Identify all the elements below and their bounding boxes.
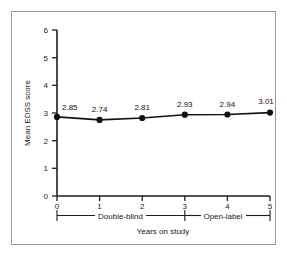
x-tick-label-3: 3 [183,202,188,211]
phase-bracket: Double-blind Open-label [57,210,270,221]
x-tick-label-5: 5 [268,202,273,211]
data-point-year-2 [139,115,145,121]
data-value-labels: 2.85 2.74 2.81 2.93 2.94 3.01 [62,97,274,114]
y-tick-label-0: 0 [44,192,49,201]
y-tick-label-1: 1 [44,164,49,173]
data-label-year-0: 2.85 [62,103,78,112]
phase-label-open-label: Open-label [203,212,242,221]
data-label-year-5: 3.01 [258,97,274,106]
y-axis: 6 5 4 3 2 1 0 Mean EDSS score [23,26,57,201]
data-point-year-5 [267,110,273,116]
series-line-mean-edss [57,113,270,120]
x-axis-title: Years on study [137,227,190,236]
x-tick-label-1: 1 [97,202,102,211]
data-label-year-2: 2.81 [134,103,150,112]
data-point-year-3 [182,112,188,118]
data-series [54,110,273,124]
x-axis: 0 1 2 3 4 5 [55,196,273,211]
y-tick-label-5: 5 [44,54,49,63]
x-tick-label-4: 4 [225,202,230,211]
x-tick-label-0: 0 [55,202,60,211]
data-point-year-4 [224,111,230,117]
data-label-year-4: 2.94 [220,100,236,109]
data-point-year-0 [54,114,60,120]
data-point-year-1 [97,117,103,123]
figure-container: 6 5 4 3 2 1 0 Mean EDSS score 0 1 2 3 4 … [0,0,287,257]
y-tick-label-3: 3 [44,109,49,118]
data-label-year-1: 2.74 [92,105,108,114]
phase-label-double-blind: Double-blind [98,212,143,221]
line-chart: 6 5 4 3 2 1 0 Mean EDSS score 0 1 2 3 4 … [0,0,287,257]
y-axis-title: Mean EDSS score [23,80,32,146]
x-tick-label-2: 2 [140,202,145,211]
y-tick-label-4: 4 [44,81,49,90]
y-tick-label-2: 2 [44,137,49,146]
y-tick-label-6: 6 [44,26,49,35]
data-label-year-3: 2.93 [177,100,193,109]
